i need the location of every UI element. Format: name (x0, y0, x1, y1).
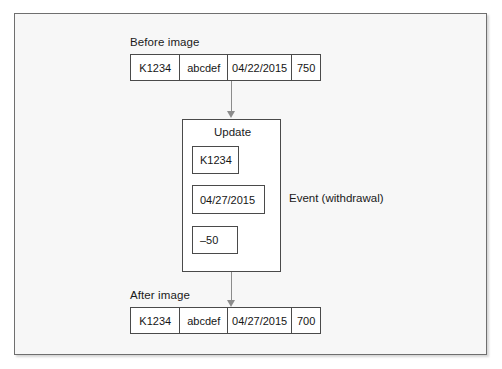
after-cell-key: K1234 (131, 308, 180, 333)
after-cell-amount: 700 (292, 308, 320, 333)
diagram-canvas: Before image K1234 abcdef 04/22/2015 750… (0, 0, 502, 369)
after-cell-date: 04/27/2015 (228, 308, 292, 333)
before-cell-key: K1234 (131, 55, 180, 80)
event-annotation-label: Event (withdrawal) (289, 192, 384, 204)
before-cell-amount: 750 (292, 55, 320, 80)
after-image-record: K1234 abcdef 04/27/2015 700 (130, 307, 321, 334)
update-field-date: 04/27/2015 (192, 185, 265, 214)
update-field-key: K1234 (192, 146, 239, 174)
before-cell-name: abcdef (180, 55, 228, 80)
before-image-record: K1234 abcdef 04/22/2015 750 (130, 54, 321, 81)
arrow-before-to-update-head (227, 111, 235, 118)
arrow-before-to-update-shaft (231, 81, 232, 112)
before-cell-date: 04/22/2015 (228, 55, 292, 80)
before-image-caption: Before image (130, 36, 200, 48)
after-image-caption: After image (130, 289, 190, 301)
arrow-update-to-after-shaft (231, 272, 232, 301)
update-field-amount: –50 (192, 226, 238, 254)
after-cell-name: abcdef (180, 308, 228, 333)
update-title: Update (183, 126, 282, 138)
update-box: Update K1234 04/27/2015 –50 (182, 119, 281, 272)
arrow-update-to-after-head (227, 300, 235, 307)
